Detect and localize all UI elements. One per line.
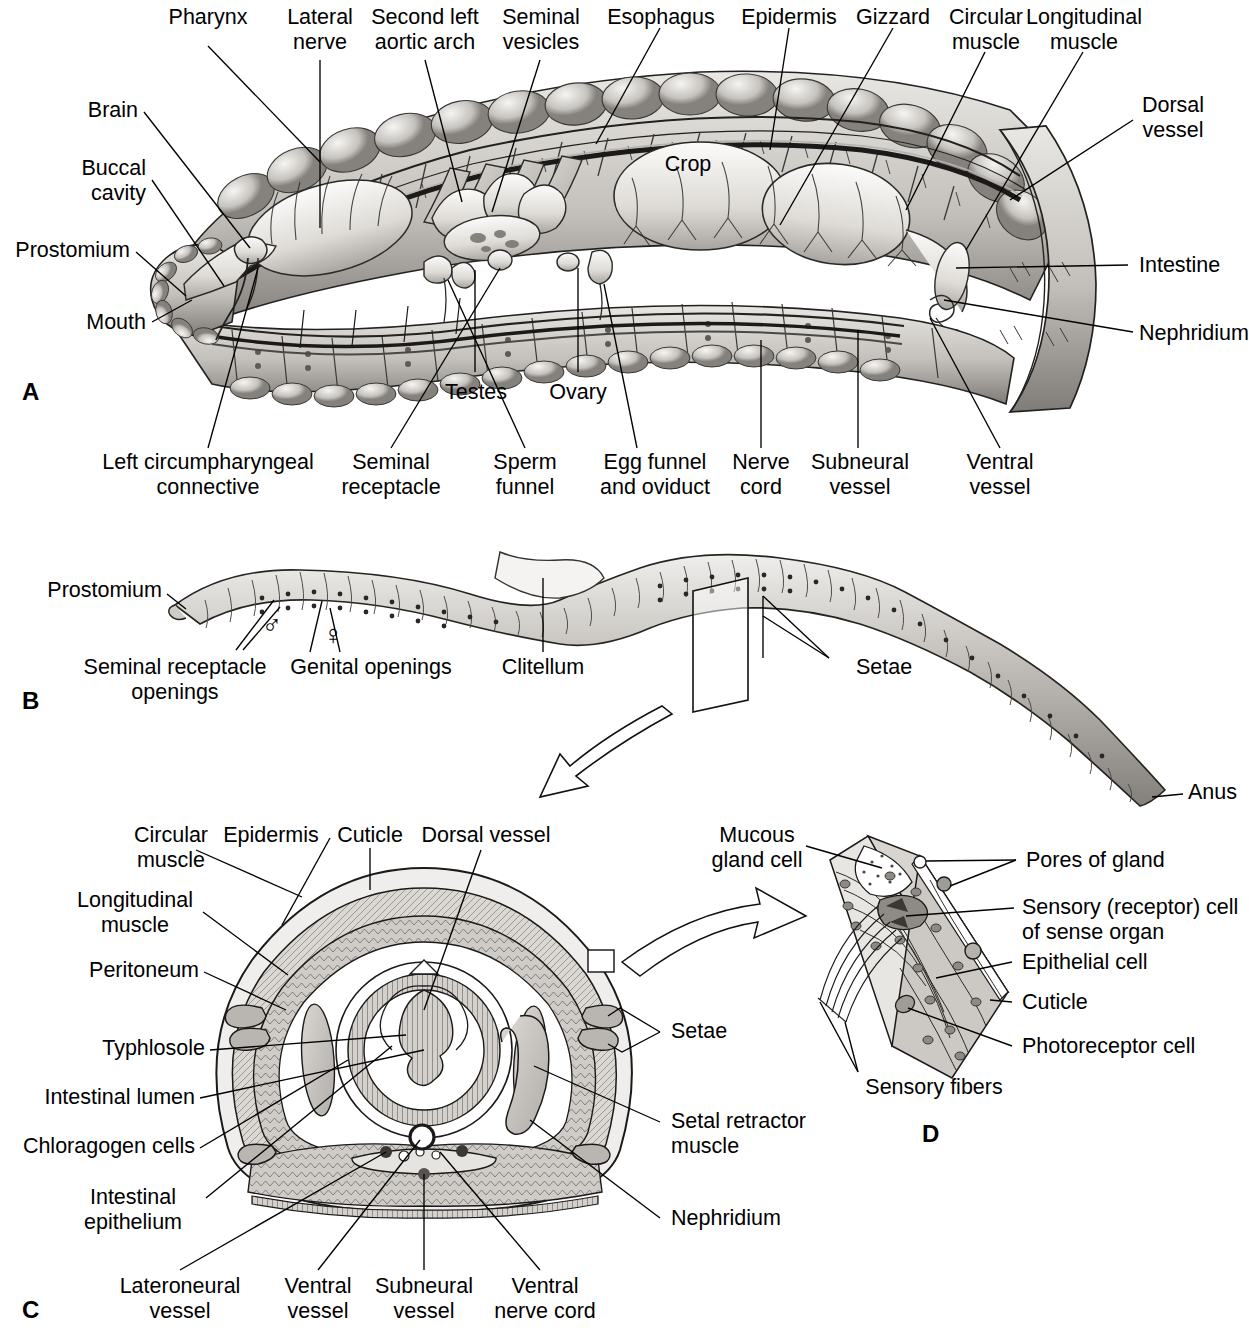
panel-letter-c: C [22, 1296, 39, 1324]
female-symbol: ♀ [323, 622, 343, 649]
label-cuticle-d: Cuticle [1022, 990, 1088, 1015]
male-symbol: ♂ [262, 612, 282, 639]
panelD-illustration [818, 836, 1008, 1078]
label-brain: Brain [88, 98, 138, 123]
panel-letter-a: A [22, 378, 39, 406]
label-circular-muscle-c: Circular muscle [134, 823, 208, 873]
label-ovary: Ovary [549, 380, 606, 405]
label-nephridium-c: Nephridium [671, 1206, 781, 1231]
label-genital-openings: Genital openings [290, 655, 451, 680]
label-chloragogen-cells: Chloragogen cells [23, 1134, 195, 1159]
label-ventral-vessel-a: Ventral vessel [967, 450, 1034, 500]
label-prostomium-a: Prostomium [15, 238, 130, 263]
label-epithelial-cell: Epithelial cell [1022, 950, 1147, 975]
label-pharynx: Pharynx [169, 5, 248, 30]
label-ventral-vessel-c: Ventral vessel [285, 1274, 352, 1324]
label-sperm-funnel: Sperm funnel [493, 450, 556, 500]
label-nephridium-a: Nephridium [1139, 321, 1249, 346]
label-crop: Crop [665, 152, 712, 177]
label-setae-c: Setae [671, 1019, 727, 1044]
label-dorsal-vessel-a: Dorsal vessel [1142, 93, 1204, 143]
label-lateroneural-vessel: Lateroneural vessel [120, 1274, 241, 1324]
panelA-illustration [148, 71, 1096, 412]
label-seminal-vesicles: Seminal vesicles [502, 5, 580, 55]
label-setae-b: Setae [856, 655, 912, 680]
label-setal-retractor-muscle: Setal retractor muscle [671, 1109, 806, 1159]
label-dorsal-vessel-c: Dorsal vessel [421, 823, 550, 848]
leader-lines [136, 28, 1183, 1270]
label-second-left-aortic-arch: Second left aortic arch [371, 5, 479, 55]
label-egg-funnel-and-oviduct: Egg funnel and oviduct [600, 450, 710, 500]
label-intestinal-epithelium: Intestinal epithelium [84, 1185, 182, 1235]
label-longitudinal-muscle: Longitudinal muscle [1026, 5, 1142, 55]
label-clitellum: Clitellum [502, 655, 584, 680]
label-sensory-receptor-cell: Sensory (receptor) cell of sense organ [1022, 895, 1238, 945]
label-nerve-cord: Nerve cord [732, 450, 789, 500]
label-mouth: Mouth [86, 310, 146, 335]
label-subneural-vessel-c: Subneural vessel [375, 1274, 473, 1324]
label-buccal-cavity: Buccal cavity [81, 156, 146, 206]
label-prostomium-b: Prostomium [47, 578, 162, 603]
label-peritoneum: Peritoneum [89, 958, 199, 983]
label-seminal-receptacle: Seminal receptacle [341, 450, 440, 500]
label-gizzard: Gizzard [856, 5, 930, 30]
label-sensory-fibers: Sensory fibers [865, 1075, 1002, 1100]
panel-letter-d: D [922, 1120, 939, 1148]
label-esophagus: Esophagus [607, 5, 715, 30]
label-lateral-nerve: Lateral nerve [287, 5, 353, 55]
label-circular-muscle: Circular muscle [949, 5, 1023, 55]
label-anus: Anus [1188, 780, 1237, 805]
label-mucous-gland-cell: Mucous gland cell [712, 823, 803, 873]
label-cuticle-c: Cuticle [337, 823, 403, 848]
label-intestinal-lumen: Intestinal lumen [44, 1085, 195, 1110]
label-longitudinal-muscle-c: Longitudinal muscle [77, 888, 193, 938]
label-left-circumpharyngeal-connective: Left circumpharyngeal connective [102, 450, 314, 500]
label-epidermis: Epidermis [741, 5, 837, 30]
label-ventral-nerve-cord: Ventral nerve cord [494, 1274, 596, 1324]
label-subneural-vessel: Subneural vessel [811, 450, 909, 500]
label-photoreceptor-cell: Photoreceptor cell [1022, 1034, 1195, 1059]
label-intestine-a: Intestine [1139, 253, 1220, 278]
label-pores-of-gland: Pores of gland [1026, 848, 1165, 873]
label-epidermis-c: Epidermis [223, 823, 319, 848]
label-seminal-receptacle-openings: Seminal receptacle openings [84, 655, 267, 705]
label-testes: Testes [445, 380, 507, 405]
label-typhlosole: Typhlosole [102, 1036, 205, 1061]
panel-letter-b: B [22, 687, 39, 715]
